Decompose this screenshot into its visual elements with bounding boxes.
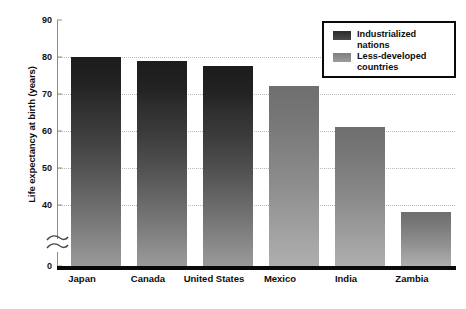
legend-swatch-lessdeveloped <box>333 53 351 62</box>
bar-mexico <box>269 86 319 266</box>
y-tick-label-40: 40 <box>26 200 52 210</box>
x-label-canada: Canada <box>112 273 184 285</box>
x-label-mexico: Mexico <box>244 273 316 285</box>
x-axis-line <box>57 266 456 270</box>
y-tick-label-80: 80 <box>26 52 52 62</box>
life-expectancy-bar-chart: Life expectancy at birth (years) 90 80 7… <box>0 0 466 309</box>
y-tick-label-70: 70 <box>26 89 52 99</box>
legend-label-lessdeveloped: Less-developed countries <box>357 51 426 73</box>
bar-zambia <box>401 212 451 266</box>
legend-swatch-industrialized <box>333 31 351 40</box>
y-tick-label-60: 60 <box>26 126 52 136</box>
x-label-japan: Japan <box>46 273 118 285</box>
legend-entry-lessdeveloped: Less-developed countries <box>333 51 426 73</box>
x-label-zambia: Zambia <box>376 273 448 285</box>
y-tick-label-50: 50 <box>26 163 52 173</box>
y-tick-label-90: 90 <box>26 15 52 25</box>
bar-united-states <box>203 66 253 266</box>
y-tick-label-0: 0 <box>26 261 52 271</box>
legend: Industrialized nations Less-developed co… <box>322 21 456 78</box>
y-tick-labels: 90 80 70 60 50 40 0 <box>22 0 52 309</box>
bar-india <box>335 127 385 266</box>
x-label-united-states: United States <box>178 273 250 285</box>
bar-canada <box>137 61 187 267</box>
legend-label-industrialized: Industrialized nations <box>357 29 416 51</box>
x-label-india: India <box>310 273 382 285</box>
bar-japan <box>71 57 121 266</box>
legend-entry-industrialized: Industrialized nations <box>333 29 416 51</box>
